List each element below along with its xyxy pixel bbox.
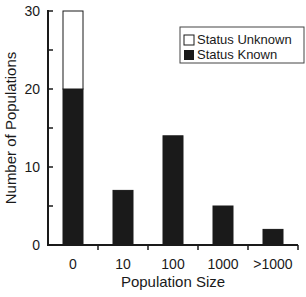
legend-label-known: Status Known (197, 47, 277, 62)
bar-chart: 0102030 0101001000>1000 Population Size … (0, 0, 306, 297)
y-tick-label: 10 (24, 159, 40, 175)
x-ticks: 0101001000>1000 (69, 245, 298, 272)
x-tick-label: 10 (115, 256, 131, 272)
x-tick-label: 0 (69, 256, 77, 272)
bar-status-known (263, 229, 283, 245)
x-tick-label: 100 (161, 256, 185, 272)
y-tick-label: 20 (24, 81, 40, 97)
legend-swatch-known-icon (184, 50, 194, 60)
bar-status-known (113, 190, 133, 245)
x-axis-title: Population Size (121, 273, 225, 290)
bar-status-unknown (63, 11, 83, 89)
bar-status-known (213, 206, 233, 245)
x-tick-label: >1000 (253, 256, 293, 272)
legend: Status Unknown Status Known (180, 27, 304, 63)
y-axis-title: Number of Populations (2, 52, 19, 205)
y-tick-label: 30 (24, 3, 40, 19)
bar-status-known (163, 136, 183, 245)
legend-label-unknown: Status Unknown (197, 32, 292, 47)
y-tick-label: 0 (32, 237, 40, 253)
bar-status-known (63, 89, 83, 245)
x-tick-label: 1000 (207, 256, 238, 272)
legend-swatch-unknown-icon (184, 35, 194, 45)
